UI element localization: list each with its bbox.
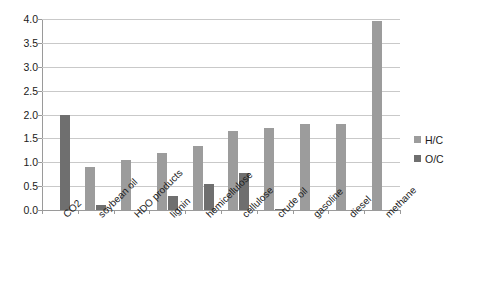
bar-group — [293, 19, 329, 210]
bar-h-c — [193, 146, 203, 210]
legend-item[interactable]: O/C — [414, 149, 474, 168]
legend-item-label: O/C — [425, 153, 444, 165]
chart-legend: H/CO/C — [414, 130, 474, 168]
legend-swatch-icon — [414, 155, 421, 162]
x-axis: CO2soybean oilHDO productsligninhemicell… — [0, 212, 477, 296]
y-axis-tick-label: 0.5 — [2, 180, 38, 192]
bar-group — [185, 19, 221, 210]
legend-item-label: H/C — [425, 134, 443, 146]
x-axis-tick-mark — [114, 210, 115, 214]
chart-screenshot: 4.03.53.02.52.01.51.00.50.0 CO2soybean o… — [0, 0, 477, 296]
x-axis-tick-mark — [293, 210, 294, 214]
y-axis-tick-label: 1.5 — [2, 132, 38, 144]
bar-h-c — [85, 167, 95, 210]
bar-o-c — [60, 115, 70, 211]
x-axis-tick-mark — [328, 210, 329, 214]
y-axis-tick-label: 3.5 — [2, 37, 38, 49]
y-axis-tick-label: 2.0 — [2, 109, 38, 121]
x-axis-tick-mark — [221, 210, 222, 214]
y-axis-tick-label: 2.5 — [2, 85, 38, 97]
x-axis-tick-mark — [364, 210, 365, 214]
y-axis: 4.03.53.02.52.01.51.00.50.0 — [0, 19, 38, 210]
x-axis-tick-mark — [149, 210, 150, 214]
y-axis-tick-label: 4.0 — [2, 13, 38, 25]
bar-group — [42, 19, 78, 210]
bar-group — [78, 19, 114, 210]
x-axis-tick-mark — [257, 210, 258, 214]
bar-group — [328, 19, 364, 210]
plot-area — [42, 19, 400, 210]
x-axis-tick-mark — [185, 210, 186, 214]
bar-group — [257, 19, 293, 210]
y-axis-tick-label: 3.0 — [2, 61, 38, 73]
legend-swatch-icon — [414, 136, 421, 143]
x-axis-tick-mark — [78, 210, 79, 214]
y-axis-tick-label: 1.0 — [2, 156, 38, 168]
bar-group — [364, 19, 400, 210]
x-axis-tick-mark — [400, 210, 401, 214]
bar-h-c — [372, 21, 382, 210]
legend-item[interactable]: H/C — [414, 130, 474, 149]
x-axis-tick-mark — [42, 210, 43, 214]
